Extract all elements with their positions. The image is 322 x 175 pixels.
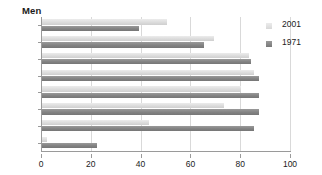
bar-2001 <box>42 53 249 58</box>
y-tick <box>38 109 41 110</box>
x-tick-80 <box>240 154 241 158</box>
y-tick <box>38 59 41 60</box>
category-row: 16–24 <box>41 134 290 151</box>
x-tick-60 <box>190 154 191 158</box>
bar-2001 <box>42 120 149 125</box>
bar-chart: Men 85+75–8465–7455–6445–5435–4425–3416–… <box>0 0 322 175</box>
y-tick <box>38 25 41 26</box>
x-tick-0 <box>41 154 42 158</box>
legend-swatch-2001-icon <box>266 23 272 29</box>
category-row: 35–44 <box>41 101 290 118</box>
bar-1971 <box>42 76 259 81</box>
legend-item-1971: 1971 <box>266 38 320 56</box>
bar-2001 <box>42 70 254 75</box>
bar-2001 <box>42 36 214 41</box>
bar-2001 <box>42 86 241 91</box>
x-axis-line <box>41 151 291 152</box>
legend-swatch-1971-icon <box>266 41 272 47</box>
x-tick-label-40: 40 <box>136 159 145 169</box>
x-tick-label-80: 80 <box>235 159 244 169</box>
legend-item-2001: 2001 <box>266 20 320 38</box>
x-tick-20 <box>91 154 92 158</box>
category-row: 25–34 <box>41 118 290 135</box>
category-row: 45–54 <box>41 84 290 101</box>
x-tick-label-100: 100 <box>283 159 297 169</box>
bar-1971 <box>42 26 139 31</box>
bar-1971 <box>42 143 97 148</box>
y-tick <box>38 76 41 77</box>
y-tick <box>38 126 41 127</box>
x-tick-label-60: 60 <box>186 159 195 169</box>
x-tick-label-20: 20 <box>86 159 95 169</box>
plot-area: 85+75–8465–7455–6445–5435–4425–3416–24 0… <box>41 17 290 151</box>
y-tick <box>38 42 41 43</box>
bar-1971 <box>42 93 259 98</box>
bar-2001 <box>42 19 167 24</box>
x-tick-label-0: 0 <box>39 159 44 169</box>
bar-1971 <box>42 126 254 131</box>
x-tick-40 <box>141 154 142 158</box>
bar-1971 <box>42 109 259 114</box>
y-tick <box>38 143 41 144</box>
bar-1971 <box>42 42 204 47</box>
category-row: 55–64 <box>41 67 290 84</box>
legend-label-1971: 1971 <box>282 37 301 47</box>
bar-1971 <box>42 59 251 64</box>
y-tick <box>38 92 41 93</box>
category-row: 75–84 <box>41 34 290 51</box>
legend: 2001 1971 <box>266 20 320 56</box>
category-row: 85+ <box>41 17 290 34</box>
category-row: 65–74 <box>41 51 290 68</box>
legend-label-2001: 2001 <box>282 19 301 29</box>
x-tick-100 <box>290 154 291 158</box>
bar-2001 <box>42 103 224 108</box>
bar-2001 <box>42 137 47 142</box>
chart-title: Men <box>22 5 42 16</box>
